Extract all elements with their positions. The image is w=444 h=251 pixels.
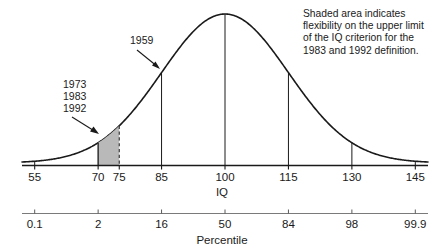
percentile-tick-label-50: 50	[219, 218, 232, 230]
percentile-tick-label-84: 84	[282, 218, 295, 230]
note-line-4: 1983 and 1992 definition.	[303, 45, 419, 56]
percentile-axis-title: Percentile	[196, 234, 247, 246]
note-line-2: flexibility on the upper limit	[303, 20, 424, 31]
iq-axis-tick-labels: 55707585100115130145	[28, 171, 425, 183]
callout-1959: 1959	[130, 34, 160, 69]
iq-tick-label-130: 130	[342, 171, 361, 183]
percentile-tick-label-0.1: 0.1	[27, 218, 43, 230]
shaded-area-note: Shaded area indicatesflexibility on the …	[303, 8, 424, 56]
callout-1959-label: 1959	[130, 34, 154, 46]
iq-tick-label-145: 145	[406, 171, 425, 183]
iq-tick-label-55: 55	[28, 171, 41, 183]
iq-axis-title: IQ	[216, 186, 228, 198]
callout-years-line-2: 1983	[63, 90, 87, 102]
percentile-axis-tick-labels: 0.121650849899.9	[27, 218, 427, 230]
iq-tick-label-70: 70	[92, 171, 105, 183]
percentile-tick-label-2: 2	[95, 218, 101, 230]
percentile-tick-label-16: 16	[155, 218, 168, 230]
iq-tick-label-115: 115	[279, 171, 297, 183]
note-line-3: of the IQ criterion for the	[303, 32, 414, 43]
iq-distribution-figure: 55707585100115130145 IQ 0.121650849899.9…	[0, 0, 444, 251]
callout-years-line-3: 1992	[63, 102, 87, 114]
note-line-1: Shaded area indicates	[303, 8, 405, 19]
callout-years-line-1: 1973	[63, 78, 87, 90]
callout-1973-1983-1992: 1973 1983 1992	[63, 78, 99, 134]
iq-tick-label-75: 75	[113, 171, 126, 183]
iq-tick-label-85: 85	[155, 171, 168, 183]
chart-canvas: 55707585100115130145 IQ 0.121650849899.9…	[0, 0, 444, 251]
percentile-tick-label-98: 98	[345, 218, 358, 230]
shaded-area-70-75	[98, 126, 119, 166]
callout-years-arrow-head	[90, 127, 99, 135]
percentile-tick-label-99.9: 99.9	[404, 218, 426, 230]
iq-tick-label-100: 100	[215, 171, 234, 183]
